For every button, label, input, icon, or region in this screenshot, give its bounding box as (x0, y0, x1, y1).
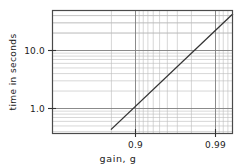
y-tick-label-1: 1.0 (30, 104, 45, 114)
x-tick-label-0p99: 0.99 (205, 140, 226, 150)
x-tick-label-0p9: 0.9 (128, 140, 143, 150)
chart-figure: 10.0 1.0 0.9 0.99 gain, g time in second… (0, 0, 247, 167)
y-tick-label-10: 10.0 (24, 46, 45, 56)
y-axis-title: time in seconds (8, 33, 18, 110)
x-axis-title: gain, g (100, 153, 137, 164)
horizontal-minor-gridlines (53, 16, 233, 132)
log-log-plot: 10.0 1.0 0.9 0.99 gain, g time in second… (0, 0, 247, 167)
